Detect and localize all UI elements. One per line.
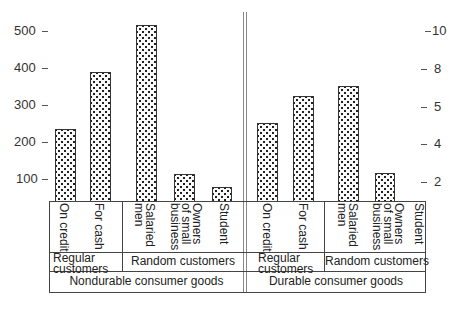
col-label-durable-student: Student (413, 203, 424, 244)
bar-durable-owners (375, 173, 395, 202)
col-label-durable-on-credit: On credit (261, 203, 272, 252)
panel-title-durable: Durable consumer goods (247, 276, 425, 287)
right-tick-label: 2 (434, 175, 441, 189)
panel-title-nondurable: Nondurable consumer goods (50, 276, 243, 287)
bar-durable-on-credit (257, 123, 278, 202)
col-label-nondurable-salaried: Salaried men (133, 203, 155, 247)
left-tick-label: 200 (14, 135, 36, 149)
left-tick-label: 100 (16, 172, 38, 186)
right-tick-label: 4 (434, 137, 441, 151)
left-tick-mark (42, 179, 48, 180)
left-tick-label: 500 (14, 24, 36, 38)
col-label-durable-owners: Owners of small business (371, 203, 404, 250)
right-tick-mark (421, 182, 427, 183)
left-tick-mark (42, 31, 48, 32)
right-tick-label: 8 (434, 62, 441, 76)
bar-durable-salaried-men (338, 86, 359, 202)
left-tick-mark (42, 68, 48, 69)
group-label-durable-regular: Regular customers (258, 253, 324, 275)
left-tick-label: 400 (14, 61, 36, 75)
right-tick-mark (421, 69, 427, 70)
col-label-nondurable-owners: Owners of small business (169, 203, 202, 250)
bar-nondurable-on-credit (55, 129, 76, 202)
left-tick-label: 300 (14, 98, 36, 112)
col-label-nondurable-for-cash: For cash (93, 203, 104, 250)
left-tick-mark (42, 142, 48, 143)
right-tick-label: 10 (432, 24, 446, 38)
left-tick-mark (42, 105, 48, 106)
bar-nondurable-for-cash (90, 72, 111, 202)
right-tick-mark (421, 107, 427, 108)
col-label-nondurable-on-credit: On credit (58, 203, 69, 252)
right-tick-mark (421, 144, 427, 145)
bar-nondurable-owners (174, 174, 195, 202)
right-tick-label: 5 (434, 100, 441, 114)
group-label-nondurable-random: Random customers (123, 256, 243, 267)
table-line (49, 292, 426, 293)
group-label-durable-random: Random customers (325, 256, 425, 267)
bar-nondurable-student (212, 187, 232, 202)
bar-durable-for-cash (293, 96, 314, 202)
right-tick-mark (425, 31, 431, 32)
group-label-nondurable-regular: Regular customers (53, 253, 121, 275)
panel-divider (243, 12, 244, 292)
panel-divider (246, 12, 247, 292)
col-label-durable-salaried: Salaried men (336, 203, 358, 247)
col-label-nondurable-student: Student (218, 203, 229, 244)
col-label-durable-for-cash: For cash (297, 203, 308, 250)
table-line (50, 201, 426, 202)
bar-nondurable-salaried-men (136, 25, 157, 202)
